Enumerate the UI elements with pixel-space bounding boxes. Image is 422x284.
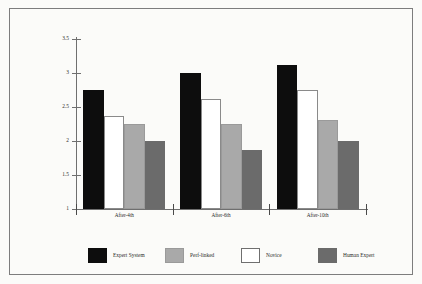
legend-label: Perf-linked — [190, 252, 214, 258]
category-label: After-10th — [307, 212, 329, 218]
legend-item: Expert System — [88, 245, 145, 265]
legend-swatch — [88, 248, 107, 263]
y-axis-tick-label: 1.5 — [62, 170, 69, 179]
legend-item: Perf-linked — [165, 245, 214, 265]
legend-swatch — [318, 248, 337, 263]
bar — [201, 99, 222, 209]
chart-legend: Expert SystemPerf-linkedNoviceHuman Expe… — [19, 245, 422, 269]
bar — [242, 150, 263, 209]
plot-area — [76, 39, 366, 209]
legend-item: Novice — [241, 245, 282, 265]
bar — [104, 116, 125, 209]
y-axis-tick-label: 3.5 — [62, 34, 69, 43]
y-axis-tick-label: 3 — [66, 68, 69, 77]
legend-swatch — [241, 248, 260, 263]
category-label: After-4th — [115, 212, 134, 218]
y-axis-tick-label: 1 — [66, 204, 69, 213]
bar — [83, 90, 104, 209]
x-axis-tick — [366, 204, 367, 215]
chart-frame: 3.532.521.51 After-4thAfter-6thAfter-10t… — [9, 8, 413, 275]
bar — [221, 124, 242, 209]
legend-swatch — [165, 248, 184, 263]
chart-figure: 3.532.521.51 After-4thAfter-6thAfter-10t… — [0, 0, 422, 284]
bar — [145, 141, 166, 209]
bar — [297, 90, 318, 209]
bar — [277, 65, 298, 209]
bar — [318, 120, 339, 209]
legend-label: Human Expert — [343, 252, 375, 258]
bar — [124, 124, 145, 209]
y-axis-tick-label: 2.5 — [62, 102, 69, 111]
y-axis-tick-label: 2 — [66, 136, 69, 145]
bar — [180, 73, 201, 209]
legend-item: Human Expert — [318, 245, 375, 265]
bar — [338, 141, 359, 209]
x-axis-line — [76, 209, 368, 210]
legend-label: Expert System — [113, 252, 145, 258]
legend-label: Novice — [266, 252, 282, 258]
category-label: After-6th — [211, 212, 230, 218]
